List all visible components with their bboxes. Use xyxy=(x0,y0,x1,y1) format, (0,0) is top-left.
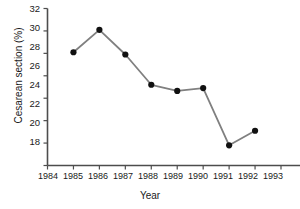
data-point-marker xyxy=(122,51,128,57)
data-point-marker xyxy=(148,82,154,88)
data-point-marker xyxy=(252,128,258,134)
data-point-marker xyxy=(226,142,232,148)
data-point-marker xyxy=(200,85,206,91)
data-point-marker xyxy=(96,27,102,33)
chart-container: Cesarean section (%) Year 32 30 28 26 24… xyxy=(0,0,300,209)
plot-area xyxy=(0,0,300,209)
data-point-marker xyxy=(174,88,180,94)
data-line xyxy=(73,30,255,146)
data-point-marker xyxy=(70,49,76,55)
data-series xyxy=(70,27,258,149)
